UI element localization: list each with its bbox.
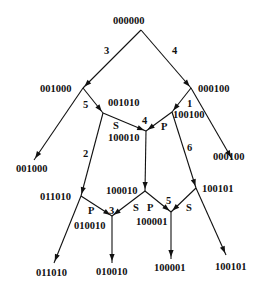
arrowhead-icon [35,151,41,158]
edge-label: 4 [172,45,178,56]
edge-label: S [133,202,139,213]
edge-label: P [88,205,95,216]
node-label: 011010 [36,267,67,278]
node-label: 100101 [215,261,247,272]
node-label: 001010 [108,97,140,108]
edge-label: P [161,121,168,132]
edge-label: 6 [187,142,192,153]
node-label: 100010 [106,185,138,196]
edge-line [83,30,141,88]
node-label: 000100 [198,83,230,94]
node-label: 010010 [74,220,106,231]
node-label: 000000 [113,15,145,26]
arrowhead-icon [191,179,196,186]
arrowhead-icon [143,182,148,189]
edge-line [34,88,83,160]
edge-line [172,112,196,188]
arrowhead-icon [168,250,173,257]
node-label: 001000 [40,83,72,94]
edge-label: P [147,202,154,213]
edge-line [191,88,232,159]
node-label: 100001 [154,262,186,273]
edge-label: 3 [104,45,109,56]
edge-label: 5 [83,99,88,110]
arrowhead-icon [220,246,225,253]
arrowhead-icon [148,124,155,130]
node-label: 011010 [40,191,71,202]
edge-line [141,30,191,88]
edge-line [196,188,226,255]
edge-label: S [186,202,192,213]
arrowhead-icon [114,208,121,214]
arrowhead-icon [55,254,60,261]
node-label: 100010 [108,132,140,143]
edge-label: 1 [187,98,192,109]
node-label: 100101 [202,183,234,194]
arrowhead-icon [109,254,114,261]
arrowhead-icon [81,187,86,194]
node-label: 001000 [16,163,48,174]
node-label: 100001 [136,216,168,227]
edge-weight-label: 3 [109,205,114,216]
edge-weight-label: 4 [142,115,148,126]
node-label: 100100 [173,109,205,120]
node-label: 000100 [213,151,245,162]
labels-group: 3451SP26PSPS0000000010000001000010101001… [16,15,247,278]
node-label: 010010 [96,266,128,277]
edge-label: 2 [83,148,88,159]
edge-label: S [113,120,119,131]
edge-line [145,131,146,191]
tree-diagram: 3451SP26PSPS0000000010000001000010101001… [0,0,265,287]
edge-weight-label: 5 [166,195,171,206]
edges-group [34,30,232,263]
